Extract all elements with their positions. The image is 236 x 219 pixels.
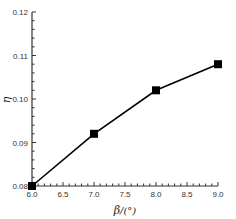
- y-tick-label: 0.09: [12, 139, 28, 148]
- x-tick-label: 6.0: [26, 190, 38, 199]
- y-tick-label: 0.10: [12, 95, 28, 104]
- x-tick-label: 8.5: [181, 190, 193, 199]
- x-tick-label: 6.5: [57, 190, 69, 199]
- y-tick-label: 0.12: [12, 8, 28, 17]
- data-point-square-marker: [214, 60, 222, 68]
- x-tick-label: 8.0: [150, 190, 162, 199]
- x-axis-title-symbol: β: [113, 204, 120, 217]
- y-tick-label: 0.11: [13, 52, 29, 61]
- data-point-square-marker: [152, 86, 160, 94]
- data-point-square-marker: [90, 130, 98, 138]
- data-series: [28, 60, 222, 190]
- data-point-square-marker: [28, 182, 36, 190]
- x-tick-label: 7.5: [119, 190, 131, 199]
- x-tick-label: 9.0: [212, 190, 224, 199]
- line-chart: 0.080.090.100.110.12 6.06.57.07.58.08.59…: [0, 0, 236, 219]
- y-axis-title: η: [0, 96, 13, 103]
- series-line: [32, 64, 218, 186]
- x-axis-title: β/(°): [113, 204, 137, 217]
- y-axis: 0.080.090.100.110.12: [12, 8, 36, 191]
- x-tick-label: 7.0: [88, 190, 100, 199]
- x-axis: 6.06.57.07.58.08.59.0: [26, 182, 224, 199]
- x-axis-title-unit: /(°): [119, 205, 136, 216]
